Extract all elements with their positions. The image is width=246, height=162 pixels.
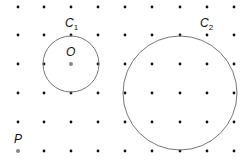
grid-dot: [17, 92, 20, 95]
grid-dot: [206, 92, 209, 95]
grid-dot: [43, 121, 46, 124]
grid-dot: [233, 6, 236, 9]
grid-dot: [124, 6, 127, 9]
grid-dot: [70, 150, 73, 153]
grid-dot: [124, 34, 127, 37]
point-p: [16, 149, 20, 153]
grid-dot: [179, 92, 182, 95]
grid-dot: [97, 92, 100, 95]
grid-dot: [151, 6, 154, 9]
grid-dot: [97, 150, 100, 153]
grid-dot: [233, 92, 236, 95]
label-o: O: [66, 45, 75, 59]
grid-dot: [43, 92, 46, 95]
grid-dot: [97, 34, 100, 37]
grid-dot: [179, 63, 182, 66]
grid-dot: [233, 150, 236, 153]
grid-dot: [70, 6, 73, 9]
grid-dot: [151, 63, 154, 66]
label-p: P: [14, 132, 22, 146]
grid-dot: [43, 150, 46, 153]
grid-dot: [17, 63, 20, 66]
label-c1: C1: [65, 16, 79, 32]
grid-dot: [206, 121, 209, 124]
grid-dot: [179, 121, 182, 124]
grid-dot: [151, 34, 154, 37]
label-c2: C2: [200, 16, 214, 32]
grid-dot: [17, 6, 20, 9]
grid-dot: [151, 150, 154, 153]
grid-dot: [124, 63, 127, 66]
grid-dot: [124, 92, 127, 95]
grid-dot: [17, 121, 20, 124]
grid-dot: [124, 121, 127, 124]
point-o: [69, 62, 73, 66]
grid-dot: [151, 92, 154, 95]
grid-dot: [233, 121, 236, 124]
grid-dot: [124, 150, 127, 153]
diagram-canvas: C1 C2 O P: [0, 0, 246, 162]
grid-dot: [151, 121, 154, 124]
grid-dot: [17, 34, 20, 37]
grid-dot: [97, 6, 100, 9]
grid-dot: [206, 34, 209, 37]
grid-dot: [206, 6, 209, 9]
grid-dot: [70, 121, 73, 124]
grid-dot: [206, 63, 209, 66]
grid-dot: [233, 63, 236, 66]
grid-dot: [179, 6, 182, 9]
grid-dot: [206, 150, 209, 153]
grid-dot: [43, 6, 46, 9]
grid-dot: [43, 34, 46, 37]
grid-dot: [97, 121, 100, 124]
grid-dot: [233, 34, 236, 37]
